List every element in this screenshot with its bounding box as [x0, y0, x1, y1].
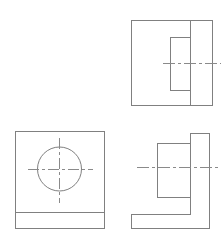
- front-view: [132, 134, 219, 229]
- side-view: [132, 21, 221, 106]
- drawing-sheet: [0, 0, 224, 244]
- orthographic-drawing-canvas: [0, 0, 224, 244]
- front-view-profile-outline: [132, 134, 210, 229]
- front-view-notch-outline: [158, 144, 191, 198]
- top-view: [16, 132, 105, 229]
